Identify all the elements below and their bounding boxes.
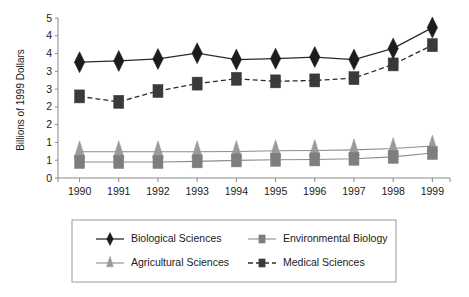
marker-square [427,147,437,160]
x-tick-label: 1997 [342,185,366,197]
x-tick-label: 1996 [303,185,327,197]
y-tick-label: 4 [46,29,52,41]
y-tick-label: 1 [46,136,52,148]
legend-label: Biological Sciences [131,232,221,244]
legend-label: Agricultural Sciences [131,256,229,268]
line-chart: Billions of 1999 Dollars 5443322110 1990… [0,0,469,297]
marker-diamond [74,52,84,73]
legend-border [72,220,396,282]
marker-square [153,84,163,97]
y-axis-title: Billions of 1999 Dollars [15,49,26,151]
marker-square [271,75,281,88]
marker-square [75,156,85,169]
y-tick-label: 2 [46,118,52,130]
marker-square [259,259,265,267]
marker-diamond [349,49,359,70]
x-tick-label: 1999 [421,185,445,197]
marker-square [153,156,163,169]
marker-diamond [270,48,280,69]
chart-legend: Biological SciencesEnvironmental Biology… [72,220,396,282]
marker-diamond [192,43,202,64]
series-line [80,45,433,102]
x-tick-label: 1994 [225,185,249,197]
marker-square [259,235,265,243]
series-markers [75,39,438,109]
marker-square [114,156,124,169]
legend-label: Environmental Biology [283,232,388,244]
series-markers [74,135,438,158]
legend-label: Medical Sciences [283,256,365,268]
marker-square [349,72,359,85]
y-tick-label: 0 [46,172,52,184]
y-axis-ticks: 5443322110 [46,12,58,184]
marker-square [192,77,202,90]
x-tick-label: 1992 [146,185,170,197]
marker-square [349,152,359,165]
marker-diamond [114,50,124,71]
y-tick-label: 4 [46,47,52,59]
x-tick-label: 1991 [107,185,131,197]
series-line [80,28,433,63]
marker-square [310,74,320,87]
x-tick-label: 1990 [68,185,92,197]
marker-diamond [310,47,320,68]
x-tick-label: 1993 [185,185,209,197]
series-line [80,153,433,162]
marker-square [388,150,398,163]
marker-square [114,95,124,108]
marker-diamond [231,49,241,70]
x-tick-label: 1998 [381,185,405,197]
marker-square [310,153,320,166]
marker-square [192,155,202,168]
marker-square [388,58,398,71]
marker-diamond [427,17,437,38]
marker-square [427,39,437,52]
series-layer [74,17,438,168]
y-tick-label: 5 [46,12,52,24]
y-tick-label: 1 [46,154,52,166]
series-line [80,146,433,152]
series-markers [74,17,437,73]
y-tick-label: 2 [46,100,52,112]
x-axis-ticks: 1990199119921993199419951996199719981999 [58,178,450,197]
chart-figure: Billions of 1999 Dollars 5443322110 1990… [0,0,469,297]
marker-square [75,90,85,103]
marker-diamond [153,48,163,69]
marker-square [231,72,241,85]
y-tick-label: 3 [46,83,52,95]
x-tick-label: 1995 [264,185,288,197]
marker-diamond [388,38,398,59]
y-tick-label: 3 [46,65,52,77]
marker-square [271,153,281,166]
marker-square [231,154,241,167]
